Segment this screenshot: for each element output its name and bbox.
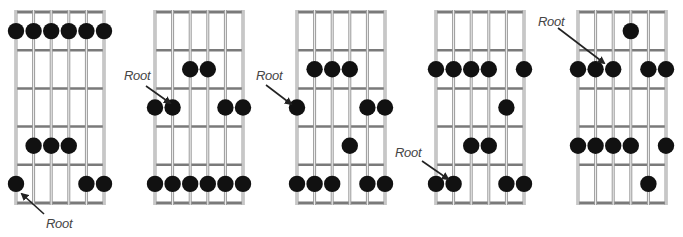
note-dot <box>498 99 514 115</box>
note-dot <box>463 61 479 77</box>
note-dot <box>43 138 59 154</box>
fretboard-diagram-3 <box>266 10 393 205</box>
note-dot <box>359 176 375 192</box>
note-dot <box>445 61 461 77</box>
note-dot <box>587 138 603 154</box>
scale-diagrams-figure <box>0 0 683 237</box>
note-dot <box>658 61 674 77</box>
root-note-dot <box>8 176 24 192</box>
note-dot <box>658 138 674 154</box>
note-dot <box>61 138 77 154</box>
note-dot <box>342 138 358 154</box>
note-dot <box>428 61 444 77</box>
root-note-dot <box>164 99 180 115</box>
note-dot <box>605 138 621 154</box>
note-dot <box>164 176 180 192</box>
root-label: Root <box>124 68 150 83</box>
root-note-dot <box>289 99 305 115</box>
note-dot <box>25 23 41 39</box>
note-dot <box>96 176 112 192</box>
note-dot <box>182 61 198 77</box>
note-dot <box>217 99 233 115</box>
root-label: Root <box>46 216 72 231</box>
note-dot <box>147 99 163 115</box>
note-dot <box>200 176 216 192</box>
note-dot <box>516 61 532 77</box>
note-dot <box>498 176 514 192</box>
note-dot <box>61 23 77 39</box>
note-dot <box>377 176 393 192</box>
note-dot <box>306 61 322 77</box>
note-dot <box>570 138 586 154</box>
note-dot <box>147 176 163 192</box>
note-dot <box>342 61 358 77</box>
note-dot <box>377 99 393 115</box>
note-dot <box>182 176 198 192</box>
note-dot <box>623 23 639 39</box>
fretboard-diagram-2 <box>146 10 251 205</box>
root-label: Root <box>395 145 421 160</box>
note-dot <box>78 176 94 192</box>
note-dot <box>306 176 322 192</box>
root-note-dot <box>605 61 621 77</box>
note-dot <box>8 23 24 39</box>
note-dot <box>623 138 639 154</box>
note-dot <box>200 61 216 77</box>
note-dot <box>324 61 340 77</box>
root-arrow <box>266 85 291 104</box>
note-dot <box>481 61 497 77</box>
note-dot <box>289 176 305 192</box>
note-dot <box>235 99 251 115</box>
note-dot <box>463 138 479 154</box>
note-dot <box>481 138 497 154</box>
note-dot <box>43 23 59 39</box>
note-dot <box>324 176 340 192</box>
root-label: Root <box>538 14 564 29</box>
note-dot <box>516 176 532 192</box>
note-dot <box>235 176 251 192</box>
note-dot <box>25 138 41 154</box>
note-dot <box>428 176 444 192</box>
note-dot <box>359 99 375 115</box>
note-dot <box>570 61 586 77</box>
note-dot <box>217 176 233 192</box>
note-dot <box>96 23 112 39</box>
note-dot <box>640 176 656 192</box>
note-dot <box>78 23 94 39</box>
fretboard-diagram-4 <box>422 10 532 205</box>
note-dot <box>640 61 656 77</box>
note-dot <box>587 61 603 77</box>
root-label: Root <box>256 68 282 83</box>
fretboard-diagram-1 <box>8 10 112 214</box>
fretboard-diagram-5 <box>558 10 674 205</box>
